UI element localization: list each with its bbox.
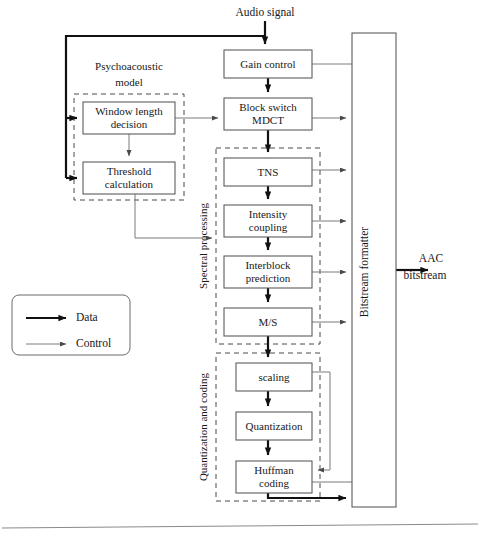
- aac-encoder-block-diagram: Audio signal Psychoacoustic model Spectr…: [0, 0, 481, 542]
- block-label-intensity-coupling-line2: coupling: [249, 221, 288, 233]
- block-intensity-coupling[interactable]: Intensity coupling: [224, 205, 312, 237]
- block-label-bitstream-formatter: Bitstream formatter: [358, 227, 370, 318]
- block-label-interblock-prediction: Interblock: [245, 259, 291, 271]
- group-label-psychoacoustic-model-line2: model: [115, 76, 143, 88]
- legend-label-control: Control: [76, 337, 111, 349]
- block-label-huffman-coding: Huffman: [254, 464, 294, 476]
- block-label-block-switch-mdct-line2: MDCT: [252, 114, 284, 126]
- block-label-block-switch-mdct: Block switch: [239, 101, 297, 113]
- block-threshold-calculation[interactable]: Threshold calculation: [83, 162, 175, 194]
- block-window-length-decision[interactable]: Window length decision: [83, 102, 175, 134]
- block-label-quantization: Quantization: [246, 420, 303, 432]
- legend: Data Control: [12, 295, 130, 355]
- group-label-psychoacoustic-model: Psychoacoustic: [95, 60, 163, 72]
- block-scaling[interactable]: scaling: [236, 363, 312, 391]
- block-label-window-length-decision: Window length: [95, 105, 163, 117]
- block-label-gain-control: Gain control: [240, 58, 295, 70]
- output-label-aac: AAC: [419, 252, 444, 264]
- block-label-scaling: scaling: [258, 371, 290, 383]
- block-block-switch-mdct[interactable]: Block switch MDCT: [224, 98, 312, 130]
- block-tns[interactable]: TNS: [224, 158, 312, 186]
- block-label-interblock-prediction-line2: prediction: [246, 272, 291, 284]
- block-label-intensity-coupling: Intensity: [249, 208, 288, 220]
- block-label-tns: TNS: [258, 166, 279, 178]
- block-label-ms: M/S: [259, 316, 278, 328]
- block-label-threshold-calculation-line2: calculation: [105, 178, 154, 190]
- group-label-spectral-processing: Spectral processing: [197, 203, 209, 289]
- legend-box: [12, 295, 130, 355]
- block-interblock-prediction[interactable]: Interblock prediction: [224, 256, 312, 288]
- caption-divider: [2, 524, 478, 528]
- block-label-threshold-calculation: Threshold: [107, 165, 152, 177]
- block-gain-control[interactable]: Gain control: [224, 50, 312, 78]
- block-label-huffman-coding-line2: coding: [259, 477, 289, 489]
- legend-label-data: Data: [76, 311, 98, 323]
- block-bitstream-formatter[interactable]: Bitstream formatter: [352, 33, 396, 507]
- data-arrow-huffman-coding-to-formatter: [268, 493, 346, 498]
- block-quantization[interactable]: Quantization: [236, 412, 312, 440]
- diagram-canvas: Audio signal Psychoacoustic model Spectr…: [0, 0, 481, 542]
- audio-signal-label: Audio signal: [235, 6, 294, 19]
- output-label-bitstream: bitstream: [404, 269, 447, 281]
- group-label-quantization-and-coding: Quantization and coding: [197, 372, 209, 481]
- control-arrow-scaling-to-huffman-coding: [312, 372, 330, 470]
- block-label-window-length-decision-line2: decision: [111, 118, 148, 130]
- block-ms[interactable]: M/S: [224, 308, 312, 336]
- block-huffman-coding[interactable]: Huffman coding: [236, 461, 312, 493]
